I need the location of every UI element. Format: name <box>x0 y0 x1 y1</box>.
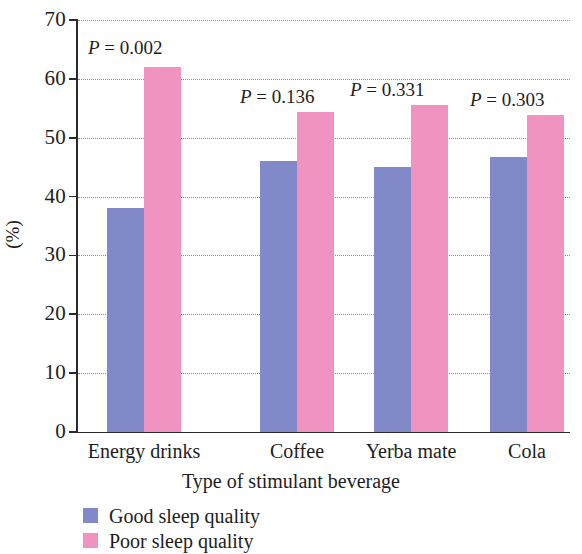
pvalue-annotation: P = 0.303 <box>470 90 545 109</box>
y-tick-label: 40 <box>0 186 66 207</box>
y-tick-label: 10 <box>0 362 66 383</box>
legend-color-swatch <box>83 533 98 548</box>
pvalue-number: = 0.331 <box>362 79 425 100</box>
y-tick-label: 0 <box>0 421 66 442</box>
pvalue-number: = 0.136 <box>252 86 315 107</box>
bar-good-sleep-quality <box>260 161 297 432</box>
y-tick-label: 60 <box>0 68 66 89</box>
bar-good-sleep-quality <box>490 157 527 432</box>
y-tick-label: 20 <box>0 303 66 324</box>
pvalue-symbol: P <box>470 89 482 110</box>
pvalue-symbol: P <box>240 86 252 107</box>
chart-legend: Good sleep qualityPoor sleep quality <box>83 503 260 553</box>
bar-poor-sleep-quality <box>144 67 181 432</box>
y-axis-title: (%) <box>3 205 22 265</box>
legend-color-swatch <box>83 508 98 523</box>
legend-item: Good sleep quality <box>83 503 260 528</box>
bar-poor-sleep-quality <box>527 115 564 432</box>
x-tick-label: Cola <box>427 440 582 462</box>
x-axis-title: Type of stimulant beverage <box>0 470 582 492</box>
bar-good-sleep-quality <box>374 167 411 432</box>
y-tick-label: 50 <box>0 127 66 148</box>
y-axis-line <box>76 19 78 433</box>
pvalue-annotation: P = 0.002 <box>88 38 163 57</box>
bar-poor-sleep-quality <box>411 105 448 432</box>
legend-label: Poor sleep quality <box>109 530 253 552</box>
pvalue-number: = 0.002 <box>100 37 163 58</box>
pvalue-annotation: P = 0.331 <box>350 80 425 99</box>
y-tick-label: 70 <box>0 9 66 30</box>
legend-label: Good sleep quality <box>109 505 260 527</box>
legend-item: Poor sleep quality <box>83 528 260 553</box>
pvalue-symbol: P <box>88 37 100 58</box>
pvalue-annotation: P = 0.136 <box>240 87 315 106</box>
bar-chart-figure: 706050403020100 P = 0.002P = 0.136P = 0.… <box>0 0 582 554</box>
pvalue-symbol: P <box>350 79 362 100</box>
bar-poor-sleep-quality <box>297 112 334 432</box>
bar-good-sleep-quality <box>107 208 144 432</box>
gridline <box>78 20 570 22</box>
pvalue-number: = 0.303 <box>482 89 545 110</box>
